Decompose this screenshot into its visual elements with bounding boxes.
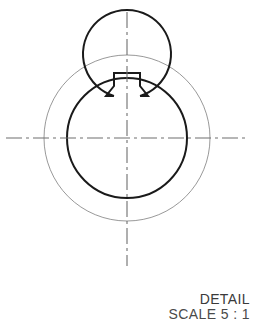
detail-callout-block: DETAIL SCALE 5 : 1 bbox=[169, 292, 250, 322]
detail-scale-note: SCALE 5 : 1 bbox=[169, 307, 250, 322]
detail-title: DETAIL bbox=[169, 292, 250, 307]
